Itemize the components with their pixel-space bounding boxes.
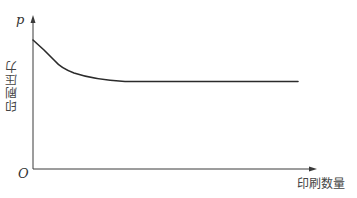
x-axis-label: 印刷数量 — [297, 178, 345, 190]
y-axis-label: 印刷压力 — [6, 60, 20, 112]
y-axis-symbol: p — [16, 13, 24, 26]
origin-label: O — [18, 167, 29, 180]
y-axis-arrow-icon — [31, 15, 36, 23]
x-axis-arrow-icon — [309, 167, 317, 172]
diagram-canvas — [0, 0, 357, 198]
pressure-curve — [33, 40, 298, 82]
